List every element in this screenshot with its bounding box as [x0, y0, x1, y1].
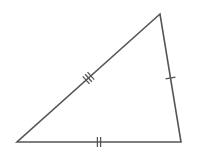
- triangle-outline: [17, 14, 181, 142]
- tick-mark: [166, 77, 176, 79]
- triangle-diagram: [0, 0, 197, 157]
- tick-marks-right-side: [166, 77, 176, 79]
